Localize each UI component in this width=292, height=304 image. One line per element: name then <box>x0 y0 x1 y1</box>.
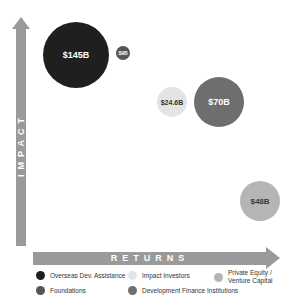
legend-swatch-icon <box>128 286 137 295</box>
returns-axis-arrowhead <box>266 247 280 269</box>
legend: Overseas Dev. Assistance Impact Investor… <box>36 269 286 301</box>
bubble-chart: IMPACT RETURNS $145B $9B $24.6B $70B $48… <box>0 0 292 304</box>
bubble-development-finance-institutions: $70B <box>194 77 244 127</box>
x-axis-label: RETURNS <box>111 253 190 263</box>
bubble-foundations: $9B <box>116 46 130 60</box>
bubble-private-equity-venture-capital: $48B <box>240 181 280 221</box>
legend-label: Private Equity / Venture Capital <box>228 269 278 285</box>
legend-swatch-icon <box>36 286 45 295</box>
legend-item-development-finance-institutions: Development Finance Institutions <box>128 286 238 295</box>
legend-swatch-icon <box>36 271 45 280</box>
legend-label: Overseas Dev. Assistance <box>50 272 125 280</box>
legend-item-private-equity-venture-capital: Private Equity / Venture Capital <box>214 269 284 285</box>
legend-swatch-icon <box>214 273 223 282</box>
legend-label: Development Finance Institutions <box>142 287 238 295</box>
bubble-impact-investors: $24.6B <box>157 87 187 117</box>
bubble-overseas-dev-assistance: $145B <box>43 22 109 88</box>
y-axis-label: IMPACT <box>16 113 26 177</box>
legend-item-impact-investors: Impact Investors <box>128 271 190 280</box>
legend-swatch-icon <box>128 271 137 280</box>
legend-item-foundations: Foundations <box>36 286 86 295</box>
legend-label: Impact Investors <box>142 272 190 280</box>
legend-item-overseas-dev-assistance: Overseas Dev. Assistance <box>36 271 125 280</box>
legend-label: Foundations <box>50 287 86 295</box>
